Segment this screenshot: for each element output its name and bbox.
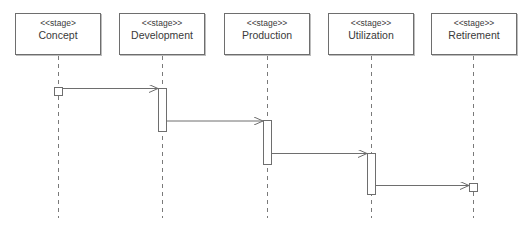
activation-development [159,89,167,132]
stage-name: Retirement [432,29,516,42]
stage-box-production: <<stage>> Production [224,13,310,55]
stage-box-development: <<stage>> Development [119,13,205,55]
stage-stereotype: <<stage>> [329,18,413,28]
activation-retirement [470,184,478,192]
activation-utilization [368,154,376,195]
stage-stereotype: <<stage>> [225,18,309,28]
stage-box-retirement: <<stage>> Retirement [431,13,517,55]
sequence-diagram: <<stage> Concept <<stage>> Development <… [0,0,530,233]
stage-name: Utilization [329,29,413,42]
activation-concept [55,88,63,96]
stage-name: Development [120,29,204,42]
stage-stereotype: <<stage> [16,18,100,28]
stage-stereotype: <<stage>> [120,18,204,28]
stage-stereotype: <<stage>> [432,18,516,28]
stage-box-utilization: <<stage>> Utilization [328,13,414,55]
stage-box-concept: <<stage> Concept [15,13,101,55]
stage-name: Concept [16,29,100,42]
activation-production [264,121,272,165]
stage-name: Production [225,29,309,42]
